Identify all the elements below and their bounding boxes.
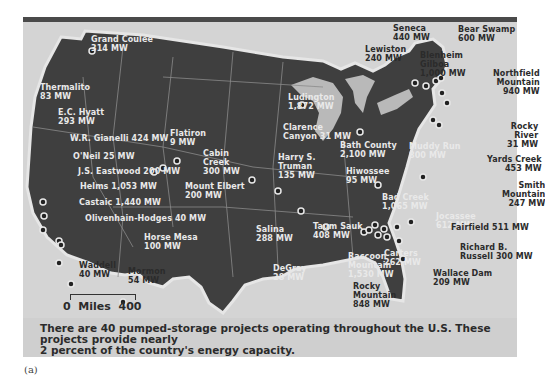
label-taum-sauk: Taum Sauk408 MW: [313, 222, 363, 240]
label-fairfield: Fairfield 511 MW: [451, 223, 529, 232]
label-wr-gianelli: W.R. Gianelli 424 MW: [70, 134, 168, 143]
label-blenheim-gilboa: BlenheimGilboa1,000 MW: [420, 51, 466, 78]
label-richard-b-russell: Richard B.Russell 300 MW: [460, 243, 533, 261]
label-castaic: Castaic 1,440 MW: [79, 198, 161, 207]
label-yards-creek: Yards Creek453 MW: [487, 155, 542, 173]
label-smith-mountain: SmithMountain247 MW: [502, 181, 545, 208]
label-ec-hyatt: E.C. Hyatt293 MW: [58, 108, 104, 126]
label-thermalito: Thermalito83 MW: [40, 83, 90, 101]
caption: There are 40 pumped-storage projects ope…: [40, 323, 510, 356]
label-clarence-canyon: ClarenceCanyon 31 MW: [283, 123, 351, 141]
label-muddy-run: Muddy Run800 MW: [409, 142, 461, 160]
label-js-eastwood: J.S. Eastwood 200 MW: [78, 167, 180, 176]
label-flatiron: Flatiron9 MW: [170, 129, 206, 147]
panel-label: (a): [24, 364, 38, 375]
label-ludington: Ludington1,872 MW: [288, 93, 335, 111]
label-oneil: O'Neil 25 MW: [73, 152, 135, 161]
scale-label: 0 Miles 400: [63, 300, 141, 313]
label-bad-creek: Bad Creek1,065 MW: [382, 193, 429, 211]
label-harry-s-truman: Harry S.Truman135 MW: [278, 153, 316, 180]
label-northfield-mountain: NorthfieldMountain940 MW: [493, 69, 540, 96]
label-horse-mesa: Horse Mesa100 MW: [144, 233, 198, 251]
label-salina: Salina288 MW: [256, 225, 293, 243]
label-rocky-river: RockyRiver31 MW: [507, 122, 538, 149]
label-waddell: Waddell40 MW: [79, 261, 116, 279]
label-rocky-mountain: RockyMountain848 MW: [353, 282, 396, 309]
label-hiwossee: Hiwossee95 MW: [346, 167, 390, 185]
map-figure: Grand Coulee314 MW Thermalito83 MW E.C. …: [23, 17, 517, 357]
label-seneca: Seneca440 MW: [393, 24, 430, 42]
label-grand-coulee: Grand Coulee314 MW: [91, 35, 153, 53]
label-degray: DeGray28 MW: [273, 264, 307, 282]
label-carters: Carters262 MW: [384, 249, 421, 267]
label-helms: Helms 1,053 MW: [80, 182, 157, 191]
label-olivenhain-hodges: Olivenhain-Hodges 40 MW: [85, 214, 206, 223]
label-bear-swamp: Bear Swamp600 MW: [458, 25, 515, 43]
label-mormon-flat: Mormon54 MW: [128, 267, 166, 285]
label-mount-elbert: Mount Elbert200 MW: [185, 182, 245, 200]
label-bath-county: Bath County2,100 MW: [340, 141, 397, 159]
label-cabin-creek: CabinCreek300 MW: [203, 149, 240, 176]
label-lewiston: Lewiston240 MW: [365, 45, 406, 63]
label-wallace-dam: Wallace Dam209 MW: [433, 269, 492, 287]
